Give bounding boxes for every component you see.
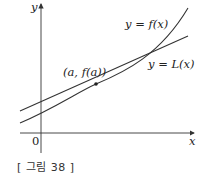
figure-caption: [ 그림 38 ] — [17, 158, 75, 174]
tangent-point — [94, 82, 98, 86]
curve-L-label: y = L(x) — [147, 57, 195, 71]
curve-f-label: y = f(x) — [124, 17, 168, 31]
x-axis-label: x — [189, 134, 196, 148]
y-axis-label: y — [30, 0, 38, 14]
tangent-line-diagram: y x 0 y = f(x) y = L(x) (a, f(a)) — [0, 0, 203, 180]
point-label: (a, f(a)) — [63, 65, 106, 79]
origin-label: 0 — [32, 134, 39, 148]
